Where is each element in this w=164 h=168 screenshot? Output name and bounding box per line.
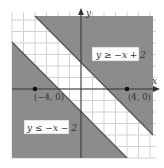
upper-region-label: y ≥ −x + 2 [95,50,146,60]
graph: x y (−4, 0) (4, 0) y ≥ −x + 2 y ≤ −x − 2 [0,0,164,168]
point-right [125,87,130,92]
point-left [33,87,38,92]
y-axis-arrow-icon [78,8,84,15]
lower-region-label: y ≤ −x − 2 [26,123,77,133]
y-axis-label: y [85,8,92,18]
x-axis-label: x [152,76,157,86]
point-left-label: (−4, 0) [34,92,64,102]
x-axis-arrow-icon [153,86,160,92]
point-right-label: (4, 0) [128,92,151,102]
